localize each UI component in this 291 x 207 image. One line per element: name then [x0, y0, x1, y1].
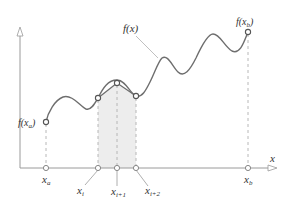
x-axis-arrow-icon: [268, 165, 277, 171]
point-f-xa: [43, 119, 48, 124]
tick-xi-leader: [85, 170, 98, 185]
tick-marker-xi: [95, 165, 100, 170]
tick-marker-xa: [43, 165, 48, 170]
tick-label-xb: xb: [243, 173, 253, 187]
point-f-xi: [95, 95, 100, 100]
curve-label-leader: [136, 36, 158, 58]
point-f-xb: [245, 29, 250, 34]
point-f-xi2: [133, 93, 138, 98]
shaded-interval: [98, 83, 136, 168]
y-axis-arrow-icon: [17, 27, 23, 36]
tick-label-xi2: xi+2: [144, 184, 161, 198]
tick-marker-xb: [245, 165, 250, 170]
curve-label: f(x): [123, 22, 139, 35]
tick-label-xi: xi: [76, 184, 84, 198]
tick-label-xi1: xi+1: [110, 185, 126, 199]
tick-label-xa: xa: [41, 173, 51, 187]
integration-diagram: f(x) f(xa) f(xb) x xa xi xi+1 xi+2 xb: [0, 0, 291, 207]
x-axis-label: x: [269, 152, 275, 164]
start-value-label: f(xa): [18, 117, 36, 130]
end-value-label: f(xb): [236, 16, 254, 29]
tick-marker-xi2: [133, 165, 138, 170]
tick-marker-xi1: [114, 165, 119, 170]
point-f-xi1: [114, 80, 119, 85]
curve-f: [46, 32, 248, 122]
